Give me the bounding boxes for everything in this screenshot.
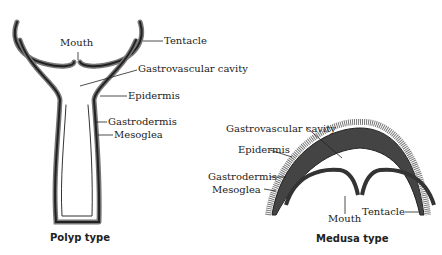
medusa-label-mouth: Mouth	[328, 214, 361, 224]
polyp-label-mouth: Mouth	[60, 38, 93, 48]
polyp-label-mesoglea: Mesoglea	[114, 130, 163, 140]
medusa-label-gastrodermis: Gastrodermis	[208, 172, 277, 182]
medusa-title: Medusa type	[316, 233, 388, 244]
medusa-label-epidermis: Epidermis	[238, 145, 290, 155]
medusa-drawing	[268, 122, 434, 215]
medusa-label-mesoglea: Mesoglea	[212, 185, 261, 195]
polyp-label-gastrovascular-cavity: Gastrovascular cavity	[138, 64, 248, 74]
polyp-title: Polyp type	[50, 232, 110, 243]
polyp-label-gastrodermis: Gastrodermis	[108, 117, 177, 127]
polyp-label-tentacle: Tentacle	[164, 36, 207, 46]
medusa-label-gastrovascular-cavity: Gastrovascular cavity	[226, 124, 336, 134]
medusa-label-tentacle: Tentacle	[362, 207, 405, 217]
polyp-label-epidermis: Epidermis	[128, 91, 180, 101]
